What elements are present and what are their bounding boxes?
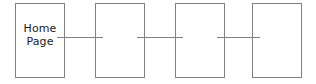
flowchart-diagram: Home Page bbox=[0, 0, 316, 84]
flowchart-node-3[interactable] bbox=[175, 3, 225, 78]
flowchart-connector-1 bbox=[57, 37, 103, 38]
flowchart-node-label: Home Page bbox=[16, 21, 64, 60]
flowchart-node-2[interactable] bbox=[95, 3, 145, 78]
flowchart-connector-2 bbox=[137, 37, 183, 38]
flowchart-node-home-page[interactable]: Home Page bbox=[15, 3, 65, 78]
flowchart-node-4[interactable] bbox=[252, 3, 302, 78]
flowchart-node-label bbox=[96, 34, 144, 47]
flowchart-node-label bbox=[253, 34, 301, 47]
flowchart-node-label bbox=[176, 34, 224, 47]
flowchart-connector-3 bbox=[217, 37, 260, 38]
